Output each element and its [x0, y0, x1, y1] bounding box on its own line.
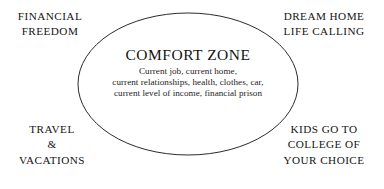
comfort-zone-item-list: Current job, current home, current relat…: [84, 66, 292, 100]
corner-label-line: VACATIONS: [4, 153, 100, 168]
comfort-zone-item: Current job, current home,: [84, 66, 292, 77]
comfort-zone-diagram: FINANCIAL FREEDOM DREAM HOME LIFE CALLIN…: [0, 0, 384, 189]
corner-label-line: &: [4, 137, 100, 152]
corner-label-line: DREAM HOME: [266, 9, 382, 24]
corner-label-line: FREEDOM: [4, 24, 96, 39]
comfort-zone-content: COMFORT ZONE Current job, current home, …: [84, 46, 292, 100]
corner-label-kids-college: KIDS GO TO COLLEGE OF YOUR CHOICE: [266, 122, 382, 168]
corner-label-line: FINANCIAL: [4, 9, 96, 24]
comfort-zone-title: COMFORT ZONE: [84, 46, 292, 64]
corner-label-line: KIDS GO TO: [266, 122, 382, 137]
corner-label-line: COLLEGE OF: [266, 137, 382, 152]
corner-label-line: YOUR CHOICE: [266, 153, 382, 168]
corner-label-line: LIFE CALLING: [266, 24, 382, 39]
corner-label-line: TRAVEL: [4, 122, 100, 137]
corner-label-dream-home-life-calling: DREAM HOME LIFE CALLING: [266, 9, 382, 40]
corner-label-travel-vacations: TRAVEL & VACATIONS: [4, 122, 100, 168]
comfort-zone-item: current level of income, financial priso…: [84, 88, 292, 99]
comfort-zone-item: current relationships, health, clothes, …: [84, 77, 292, 88]
corner-label-financial-freedom: FINANCIAL FREEDOM: [4, 9, 96, 40]
